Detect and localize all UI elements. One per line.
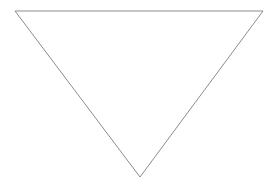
triangle-svg bbox=[0, 0, 274, 188]
canvas-background bbox=[0, 0, 274, 188]
figure-canvas bbox=[0, 0, 274, 188]
